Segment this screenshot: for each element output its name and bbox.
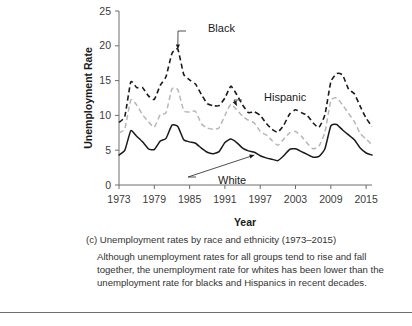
x-tick-label: 1991 bbox=[213, 193, 237, 205]
x-tick-label: 1997 bbox=[249, 193, 273, 205]
x-tick-label: 1979 bbox=[143, 193, 167, 205]
x-tick-label: 2015 bbox=[354, 193, 378, 205]
x-tick-label: 2009 bbox=[319, 193, 343, 205]
series-line-white bbox=[119, 124, 372, 160]
annotation-arrow-head bbox=[249, 155, 254, 159]
x-tick-label: 2003 bbox=[284, 193, 308, 205]
caption-label: (c) bbox=[86, 234, 97, 245]
y-tick-label: 15 bbox=[99, 74, 111, 86]
unemployment-line-chart: Unemployment Rate 0510152025 19731979198… bbox=[0, 0, 412, 232]
y-tick-label: 0 bbox=[105, 179, 111, 191]
figure-container: Unemployment Rate 0510152025 19731979198… bbox=[0, 0, 412, 326]
caption-title-text: Unemployment rates by race and ethnicity… bbox=[100, 234, 336, 245]
x-axis-ticks: 19731979198519911997200320092015 bbox=[107, 185, 378, 205]
caption-block: (c) Unemployment rates by race and ethni… bbox=[0, 233, 412, 290]
series-label-black: Black bbox=[208, 22, 235, 34]
x-tick-label: 1985 bbox=[178, 193, 202, 205]
series-line-hispanic bbox=[119, 88, 372, 149]
series-label-hispanic: Hispanic bbox=[264, 91, 307, 103]
caption-body-text: Although unemployment rates for all grou… bbox=[0, 250, 412, 290]
y-tick-label: 20 bbox=[99, 39, 111, 51]
y-axis-ticks: 0510152025 bbox=[99, 5, 119, 191]
y-tick-label: 25 bbox=[99, 5, 111, 17]
series-line-black bbox=[119, 49, 372, 132]
series-label-white: White bbox=[218, 174, 246, 186]
footer-divider bbox=[0, 312, 412, 313]
caption-title-line: (c) Unemployment rates by race and ethni… bbox=[0, 233, 412, 246]
y-tick-label: 5 bbox=[105, 144, 111, 156]
series-annotations: BlackHispanicWhite bbox=[176, 22, 307, 186]
x-tick-label: 1973 bbox=[107, 193, 131, 205]
y-axis-title: Unemployment Rate bbox=[82, 47, 94, 149]
chart-area: Unemployment Rate 0510152025 19731979198… bbox=[0, 0, 412, 232]
y-tick-label: 10 bbox=[99, 109, 111, 121]
x-axis-title: Year bbox=[234, 216, 256, 228]
